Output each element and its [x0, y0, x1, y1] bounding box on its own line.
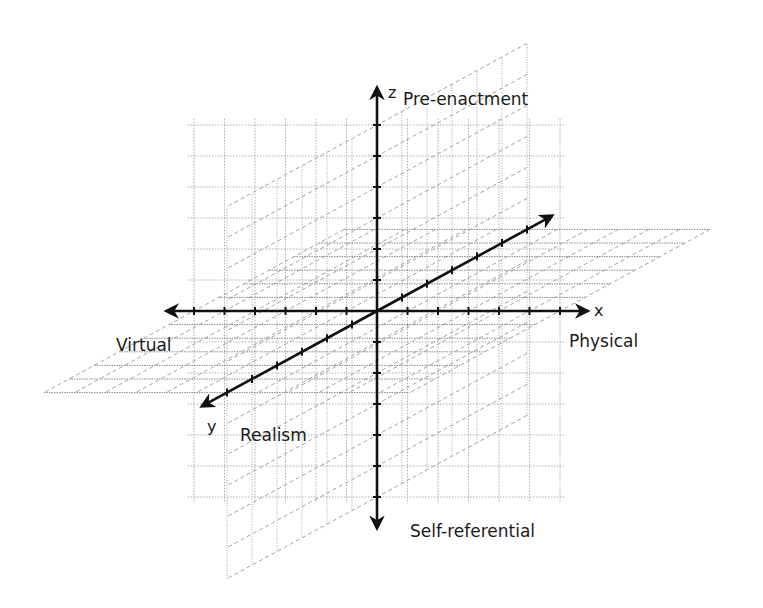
label-pre-enactment: Pre-enactment	[403, 89, 529, 109]
label-physical: Physical	[569, 331, 638, 351]
x-axis-name: x	[594, 301, 603, 320]
z-axis-name: z	[388, 83, 396, 102]
label-virtual: Virtual	[116, 335, 172, 355]
label-self-referential: Self-referential	[410, 521, 535, 541]
3d-axes-diagram: z Pre-enactment x Physical Virtual y Rea…	[0, 0, 763, 608]
label-realism: Realism	[240, 425, 307, 445]
y-axis-name: y	[207, 417, 216, 436]
